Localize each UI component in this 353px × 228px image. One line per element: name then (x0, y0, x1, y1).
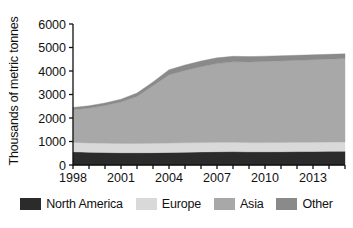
area-series-europe (73, 142, 345, 153)
legend-swatch-other (276, 198, 297, 210)
legend-item-other[interactable]: Other (276, 197, 332, 211)
x-tick-label: 2004 (155, 171, 183, 185)
y-tick-label: 5000 (38, 41, 66, 55)
x-tick-label: 2007 (203, 171, 231, 185)
x-tick-label: 1998 (59, 171, 87, 185)
legend-item-europe[interactable]: Europe (136, 197, 201, 211)
chart-figure: Thousands of metric tonnes 0100020003000… (0, 0, 353, 228)
legend-item-asia[interactable]: Asia (214, 197, 264, 211)
y-tick-label: 4000 (38, 65, 66, 79)
chart-legend: North America Europe Asia Other (0, 192, 353, 216)
y-tick-label: 2000 (38, 112, 66, 126)
legend-label-other: Other (302, 197, 332, 211)
legend-label-asia: Asia (240, 197, 264, 211)
x-tick-label: 2001 (107, 171, 135, 185)
y-tick-label: 1000 (38, 135, 66, 149)
y-tick-label: 6000 (38, 18, 66, 32)
y-tick-label: 3000 (38, 88, 66, 102)
legend-label-europe: Europe (162, 197, 201, 211)
legend-item-north-america[interactable]: North America (20, 197, 123, 211)
legend-swatch-asia (214, 198, 235, 210)
legend-swatch-north-america (20, 198, 41, 210)
legend-swatch-europe (136, 198, 157, 210)
x-tick-label: 2010 (251, 171, 279, 185)
area-series-north-america (73, 151, 345, 165)
x-tick-label: 2013 (299, 171, 327, 185)
legend-label-north-america: North America (46, 197, 123, 211)
